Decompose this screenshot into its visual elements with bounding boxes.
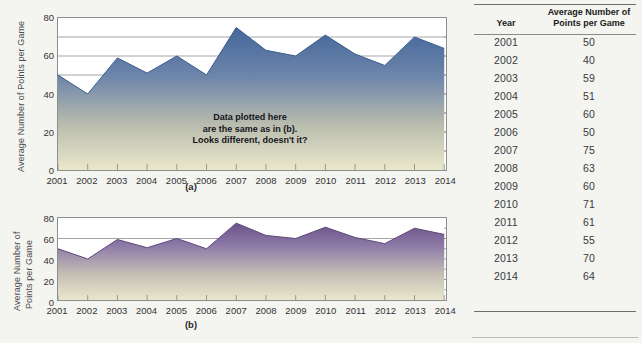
table-row: 200359 (472, 69, 638, 87)
chart-a-ytick-40: 40 (28, 89, 54, 100)
table-bottom-rule (474, 311, 636, 312)
table-cell-year: 2010 (472, 195, 540, 213)
table-cell-year: 2014 (472, 267, 540, 285)
chart-a-ytick-80: 80 (28, 12, 54, 23)
table-cell-value: 55 (540, 231, 638, 249)
table-cell-year: 2007 (472, 141, 540, 159)
chart-b-xtick-2008: 2008 (251, 305, 281, 316)
table-cell-value: 51 (540, 87, 638, 105)
chart-b-xtick-2001: 2001 (42, 305, 72, 316)
table-row: 201370 (472, 249, 638, 267)
table-cell-year: 2008 (472, 159, 540, 177)
table-row: 201161 (472, 213, 638, 231)
chart-b-xtick-2006: 2006 (191, 305, 221, 316)
table-cell-value: 59 (540, 69, 638, 87)
chart-b-xtick-2014: 2014 (430, 305, 460, 316)
table-header-year: Year (472, 6, 540, 33)
chart-a-xtick-2014: 2014 (430, 175, 460, 186)
chart-b-xtick-2002: 2002 (72, 305, 102, 316)
chart-b-caption: (b) (0, 319, 422, 330)
table-cell-value: 60 (540, 105, 638, 123)
table-row: 201255 (472, 231, 638, 249)
table-cell-value: 64 (540, 267, 638, 285)
table-row: 200150 (472, 33, 638, 51)
chart-a-svg (58, 18, 446, 170)
table-header-value: Average Number of Points per Game (540, 6, 638, 33)
chart-a-area-series (58, 28, 444, 170)
table-cell-year: 2001 (472, 33, 540, 51)
chart-b-ytick-80: 80 (28, 213, 54, 224)
table-cell-value: 70 (540, 249, 638, 267)
table-cell-year: 2003 (472, 69, 540, 87)
table-header-row: Year Average Number of Points per Game (472, 6, 638, 33)
data-table: Year Average Number of Points per Game 2… (472, 6, 638, 285)
chart-b-xtick-2005: 2005 (161, 305, 191, 316)
chart-b-xtick-2013: 2013 (400, 305, 430, 316)
table-row: 200240 (472, 51, 638, 69)
table-header-value-line-1: Average Number of (542, 7, 636, 18)
chart-a-ytick-60: 60 (28, 50, 54, 61)
table-cell-value: 50 (540, 33, 638, 51)
table-cell-value: 75 (540, 141, 638, 159)
chart-b-xtick-2011: 2011 (341, 305, 371, 316)
chart-a-caption: (a) (0, 181, 422, 192)
chart-a: Average Number of Points per Game (0, 0, 462, 200)
chart-a-plot-area (57, 17, 447, 171)
table-row: 200863 (472, 159, 638, 177)
table-cell-year: 2013 (472, 249, 540, 267)
table-row: 200451 (472, 87, 638, 105)
chart-b-ytick-60: 60 (28, 234, 54, 245)
table-row: 200560 (472, 105, 638, 123)
chart-b-xtick-2010: 2010 (311, 305, 341, 316)
chart-b-ytick-40: 40 (28, 255, 54, 266)
chart-b-xtick-2004: 2004 (132, 305, 162, 316)
table-cell-value: 71 (540, 195, 638, 213)
chart-a-y-axis-label: Average Number of Points per Game (16, 21, 26, 172)
chart-b-plot-area (57, 217, 447, 301)
table-row: 200650 (472, 123, 638, 141)
table-row: 201071 (472, 195, 638, 213)
chart-b-right-tickmarks (444, 228, 446, 290)
table-cell-value: 40 (540, 51, 638, 69)
chart-b-area-series (58, 223, 444, 300)
chart-b-ytick-20: 20 (28, 276, 54, 287)
chart-b-xtick-2007: 2007 (221, 305, 251, 316)
chart-b-y-axis-label-line-1: Average Number of (12, 231, 22, 311)
table-cell-value: 61 (540, 213, 638, 231)
page-edge-rule (472, 337, 638, 338)
charts-column: Average Number of Points per Game (0, 0, 462, 343)
table-cell-year: 2012 (472, 231, 540, 249)
table-cell-year: 2011 (472, 213, 540, 231)
chart-b-xtick-2003: 2003 (102, 305, 132, 316)
chart-a-right-tickmarks (444, 37, 446, 151)
table-cell-value: 60 (540, 177, 638, 195)
table-head: Year Average Number of Points per Game (472, 6, 638, 33)
table-cell-year: 2006 (472, 123, 540, 141)
figure-page: Average Number of Points per Game (0, 0, 642, 343)
table-cell-year: 2009 (472, 177, 540, 195)
chart-a-ytick-20: 20 (28, 127, 54, 138)
table-header-value-line-2: Points per Game (542, 18, 636, 29)
chart-b-xtick-2012: 2012 (370, 305, 400, 316)
table-cell-year: 2004 (472, 87, 540, 105)
data-table-wrapper: Year Average Number of Points per Game 2… (472, 0, 642, 343)
table-row: 200960 (472, 177, 638, 195)
table-row: 201464 (472, 267, 638, 285)
chart-b-svg (58, 218, 446, 300)
table-body: 2001502002402003592004512005602006502007… (472, 33, 638, 285)
table-row: 200775 (472, 141, 638, 159)
table-cell-year: 2005 (472, 105, 540, 123)
table-cell-value: 63 (540, 159, 638, 177)
table-cell-year: 2002 (472, 51, 540, 69)
table-cell-value: 50 (540, 123, 638, 141)
chart-b-xtick-2009: 2009 (281, 305, 311, 316)
chart-b: Average Number of Points per Game (0, 205, 462, 335)
